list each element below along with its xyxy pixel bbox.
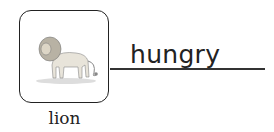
answer-word: hungry [130,40,220,69]
picture-card [19,10,109,103]
picture-caption: lion [19,108,110,128]
lion-icon [32,27,100,87]
